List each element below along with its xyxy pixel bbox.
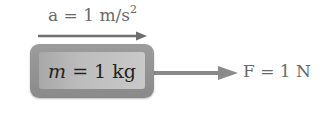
mass-block: m = 1 kg: [30, 44, 154, 98]
mass-block-face: m = 1 kg: [39, 52, 145, 89]
force-arrow-icon: [154, 66, 238, 80]
force-label: F = 1 N: [243, 61, 311, 81]
mass-symbol: m: [48, 60, 66, 82]
acceleration-arrow-icon: [38, 32, 147, 41]
mass-value: = 1 kg: [66, 60, 136, 82]
mass-label: m = 1 kg: [48, 60, 136, 82]
